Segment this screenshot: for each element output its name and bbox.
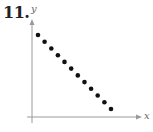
x-axis-arrow-icon [136, 115, 142, 120]
data-point [82, 80, 87, 85]
data-point [56, 53, 61, 58]
data-points [36, 33, 114, 112]
axes [27, 19, 142, 123]
data-point [36, 33, 41, 38]
data-point [69, 66, 74, 71]
data-point [109, 107, 114, 112]
data-point [95, 93, 100, 98]
data-point [102, 100, 107, 105]
data-point [49, 46, 54, 51]
data-point [76, 73, 81, 78]
y-axis-arrow-icon [30, 19, 35, 25]
data-point [42, 39, 47, 44]
scatter-plot [0, 0, 153, 132]
data-point [89, 87, 94, 92]
data-point [62, 60, 67, 65]
